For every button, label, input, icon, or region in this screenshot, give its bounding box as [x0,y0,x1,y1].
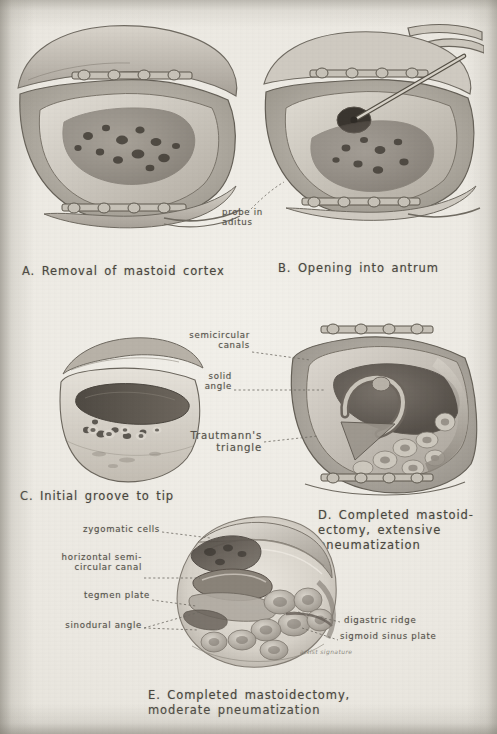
caption-panel-c: C. Initial groove to tip [20,490,174,504]
panel-c-illustration [55,330,205,485]
artist-signature: artist signature [300,648,352,655]
caption-panel-b: B. Opening into antrum [278,262,439,276]
page-bottom-edge [0,718,497,734]
label-solid-angle: solid angle [186,371,232,392]
label-horizontal-semicircular-canal: horizontal semi- circular canal [48,552,142,573]
label-sigmoid-sinus-plate: sigmoid sinus plate [340,631,470,641]
caption-panel-e: E. Completed mastoidectomy, moderate pne… [148,688,350,718]
label-trautmanns-triangle: Trautmann's triangle [176,430,262,454]
illustration-plate: probe in aditus A. Removal of mastoid co… [0,0,497,734]
label-tegmen-plate: tegmen plate [68,590,150,600]
panel-d-illustration [285,318,481,500]
panel-a-illustration [14,18,244,233]
label-sinodural-angle: sinodural angle [54,620,142,630]
caption-panel-a: A. Removal of mastoid cortex [22,265,225,279]
label-probe-in-aditus: probe in aditus [222,207,292,228]
label-semicircular-canals: semicircular canals [186,330,250,351]
label-digastric-ridge: digastric ridge [344,615,454,625]
label-zygomatic-cells: zygomatic cells [72,524,160,534]
panel-b-illustration [258,22,484,227]
